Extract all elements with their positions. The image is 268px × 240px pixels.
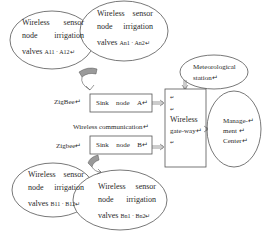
sensor-b1-line1: Wirelesssensor	[28, 170, 84, 180]
label: valves	[98, 211, 118, 220]
label: node	[97, 22, 113, 32]
label: node	[98, 195, 114, 205]
sink-node-b: Sink node B↵	[96, 140, 148, 150]
label: valves	[22, 47, 42, 56]
label: Sink	[96, 98, 109, 108]
label: gate-way↵	[170, 126, 202, 136]
label: station↵	[193, 73, 236, 83]
label: A↵	[137, 98, 148, 108]
sensor-a1-line3: valves A11 · A12↵	[22, 47, 84, 57]
label: Center↵	[223, 136, 254, 146]
sensor-a2-line2: nodeirrigation	[97, 22, 153, 32]
label: B↵	[137, 140, 148, 150]
sensor-b1-line3: valves B11 · B12↵	[28, 199, 84, 209]
label: valves	[28, 199, 48, 208]
label: irrigation	[54, 31, 84, 41]
sensor-a2-line1: Wirelesssensor	[97, 9, 153, 19]
sensor-node-b1: Wirelesssensor nodeirrigation valves B11…	[28, 170, 84, 209]
label: node	[28, 183, 44, 193]
meteorological-station: Meteorological station↵	[193, 62, 236, 83]
paragraph-mark: ↵	[170, 95, 202, 101]
label: sensor	[64, 170, 84, 180]
valve-ids: An1 · An2↵	[119, 40, 149, 46]
label: valves	[97, 38, 117, 47]
curved-arrow-bottom-icon	[88, 155, 101, 174]
label: sensor	[136, 182, 156, 192]
sensor-b2-line3: valves Bn1 · Bn2↵	[98, 211, 156, 221]
label: irrigation	[54, 183, 84, 193]
sensor-node-a1: Wirelesssensor nodeirrigation valves A11…	[22, 18, 84, 57]
wireless-gateway: ↵ ↵ Wireless gate-way↵ ↵	[170, 95, 202, 146]
zigbee-label-top: ZigBee↵	[54, 97, 81, 107]
wireless-communication-label: Wireless communication↵	[73, 122, 149, 132]
label: Wireless	[28, 170, 56, 180]
paragraph-mark: ↵	[170, 140, 202, 146]
sensor-a1-line1: Wirelesssensor	[22, 18, 84, 28]
label: ment ↵	[223, 126, 254, 136]
label: Wireless	[97, 9, 125, 19]
valve-ids: Bn1 · Bn2↵	[120, 213, 150, 219]
label: irrigation	[126, 195, 156, 205]
label: node	[22, 31, 38, 41]
label: Wireless	[170, 115, 202, 125]
label: node	[116, 140, 130, 150]
label: sensor	[133, 9, 153, 19]
valve-ids: B11 · B12↵	[50, 201, 80, 207]
label: irrigation	[123, 22, 153, 32]
label: Meteorological	[193, 62, 236, 72]
sensor-a1-line2: nodeirrigation	[22, 31, 84, 41]
label: Manage-↵	[223, 116, 254, 126]
management-center: Manage-↵ ment ↵ Center↵	[223, 116, 254, 146]
arrow-sink-b-to-gateway-icon	[152, 144, 164, 150]
sink-node-a: Sink node A↵	[96, 98, 148, 108]
sensor-b2-line2: nodeirrigation	[98, 195, 156, 205]
label: node	[116, 98, 130, 108]
paragraph-mark: ↵	[170, 107, 202, 113]
arrow-sink-a-to-gateway-icon	[152, 100, 164, 106]
label: Wireless	[98, 182, 126, 192]
label: Sink	[96, 140, 109, 150]
sensor-node-a2: Wirelesssensor nodeirrigation valves An1…	[97, 9, 153, 48]
valve-ids: A11 · A12↵	[44, 49, 74, 55]
label: Wireless	[22, 18, 50, 28]
curved-arrow-top-icon	[79, 68, 97, 90]
sensor-b2-line1: Wirelesssensor	[98, 182, 156, 192]
sensor-b1-line2: nodeirrigation	[28, 183, 84, 193]
sensor-node-b2: Wirelesssensor nodeirrigation valves Bn1…	[98, 182, 156, 221]
zigbee-label-bottom: Zigbee↵	[56, 141, 81, 151]
sensor-a2-line3: valves An1 · An2↵	[97, 38, 153, 48]
label: sensor	[64, 18, 84, 28]
